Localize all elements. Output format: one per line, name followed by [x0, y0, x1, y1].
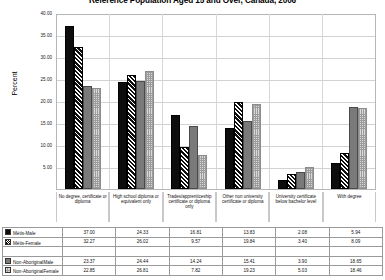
bar-group [163, 14, 216, 189]
x-tick-label: High school diploma or equivalent only [109, 192, 162, 222]
legend-value-cell: 37.00 [63, 228, 116, 238]
chart-title: Reference Population Aged 15 and Over, C… [0, 0, 385, 6]
bar-group [270, 14, 323, 189]
legend-value-cell: 9.57 [169, 237, 222, 247]
x-axis-category-labels: No degree, certificate or diplomaHigh sc… [56, 192, 376, 222]
legend-table-body: Métis-Male37.0024.3316.8113.832.085.94Mé… [3, 228, 383, 276]
legend-value-cell: 23.37 [63, 256, 116, 266]
legend-spacer-cell [3, 247, 63, 257]
legend-value-cell: 18.46 [329, 266, 382, 276]
legend-row: Non-AboriginalMale23.3724.4414.2415.413.… [3, 256, 383, 266]
y-tick-label: 30.00 [41, 56, 53, 61]
bar-group [217, 14, 270, 189]
legend-value-cell: 13.83 [222, 228, 275, 238]
bar[interactable] [252, 104, 261, 189]
legend-value-cell: 5.94 [329, 228, 382, 238]
legend-value-cell: 2.08 [276, 228, 329, 238]
y-tick-label: 40.00 [41, 12, 53, 17]
legend-spacer-row [3, 247, 383, 257]
bar[interactable] [225, 128, 234, 189]
bar[interactable] [243, 121, 252, 189]
legend-swatch-icon [5, 267, 11, 273]
bar[interactable] [349, 107, 358, 189]
bar[interactable] [118, 82, 127, 189]
x-tick-label: Other non university certificate or dipl… [216, 192, 269, 222]
plot-wrapper: Percent 40.0035.0030.0025.0020.0015.0010… [0, 8, 385, 224]
y-tick-label: 5.00 [43, 166, 52, 171]
legend-spacer-cell [276, 247, 329, 257]
y-tick-label: 25.00 [41, 78, 53, 83]
legend-swatch-icon [5, 258, 11, 264]
bar-groups [57, 14, 375, 189]
bar[interactable] [92, 88, 101, 189]
bar[interactable] [74, 47, 83, 189]
bar[interactable] [305, 167, 314, 189]
y-tick-label: 20.00 [41, 100, 53, 105]
legend-value-cell: 14.24 [169, 256, 222, 266]
y-tick-label: 35.00 [41, 34, 53, 39]
bar[interactable] [234, 102, 243, 189]
x-tick-label: No degree, certificate or diploma [56, 192, 109, 222]
legend-data-table: Métis-Male37.0024.3316.8113.832.085.94Mé… [2, 227, 383, 276]
bar[interactable] [83, 86, 92, 189]
bar[interactable] [296, 172, 305, 189]
bar-group [57, 14, 110, 189]
legend-series-label: Métis-Female [3, 237, 63, 247]
y-axis-tick-labels: 40.0035.0030.0025.0020.0015.0010.005.00 [22, 14, 54, 190]
bar[interactable] [358, 108, 367, 189]
legend-row: Non-AboriginalFemale22.8526.817.8219.235… [3, 266, 383, 276]
legend-value-cell: 26.02 [116, 237, 169, 247]
bar[interactable] [65, 26, 74, 189]
legend-value-cell: 18.65 [329, 256, 382, 266]
bar[interactable] [145, 71, 154, 189]
legend-series-label: Métis-Male [3, 228, 63, 238]
bar[interactable] [287, 174, 296, 189]
legend-value-cell: 7.82 [169, 266, 222, 276]
bar[interactable] [180, 147, 189, 189]
legend-value-cell: 16.81 [169, 228, 222, 238]
legend-swatch-icon [5, 229, 11, 235]
legend-value-cell: 8.09 [329, 237, 382, 247]
y-axis-label: Percent [11, 54, 18, 114]
y-tick-label: 15.00 [41, 122, 53, 127]
bar[interactable] [127, 75, 136, 189]
legend-series-label: Non-AboriginalMale [3, 256, 63, 266]
plot-area [56, 14, 376, 190]
bar[interactable] [171, 115, 180, 189]
legend-spacer-cell [222, 247, 275, 257]
legend-spacer-cell [63, 247, 116, 257]
legend-value-cell: 15.41 [222, 256, 275, 266]
bar[interactable] [331, 163, 340, 189]
bar[interactable] [198, 155, 207, 189]
legend-value-cell: 3.40 [276, 237, 329, 247]
y-tick-label: 10.00 [41, 144, 53, 149]
legend-row: Métis-Male37.0024.3316.8113.832.085.94 [3, 228, 383, 238]
legend-value-cell: 19.23 [222, 266, 275, 276]
bar-group [110, 14, 163, 189]
legend-swatch-icon [5, 239, 11, 245]
legend-row: Métis-Female32.2726.029.5719.843.408.09 [3, 237, 383, 247]
legend-value-cell: 19.84 [222, 237, 275, 247]
legend-spacer-cell [169, 247, 222, 257]
bar[interactable] [278, 180, 287, 189]
legend-value-cell: 24.33 [116, 228, 169, 238]
bar-group [323, 14, 375, 189]
legend-spacer-cell [329, 247, 382, 257]
bar[interactable] [136, 81, 145, 189]
legend-value-cell: 5.03 [276, 266, 329, 276]
legend-spacer-cell [116, 247, 169, 257]
legend-value-cell: 3.90 [276, 256, 329, 266]
x-tick-label: University certificate below bachelor le… [269, 192, 322, 222]
x-tick-label: With degree [323, 192, 376, 222]
x-tick-label: Trades/apprenticeship certificate or dip… [163, 192, 216, 222]
bar[interactable] [340, 153, 349, 189]
legend-series-label: Non-AboriginalFemale [3, 266, 63, 276]
legend-value-cell: 26.81 [116, 266, 169, 276]
legend-value-cell: 22.85 [63, 266, 116, 276]
legend-value-cell: 32.27 [63, 237, 116, 247]
bar[interactable] [189, 126, 198, 189]
legend-value-cell: 24.44 [116, 256, 169, 266]
